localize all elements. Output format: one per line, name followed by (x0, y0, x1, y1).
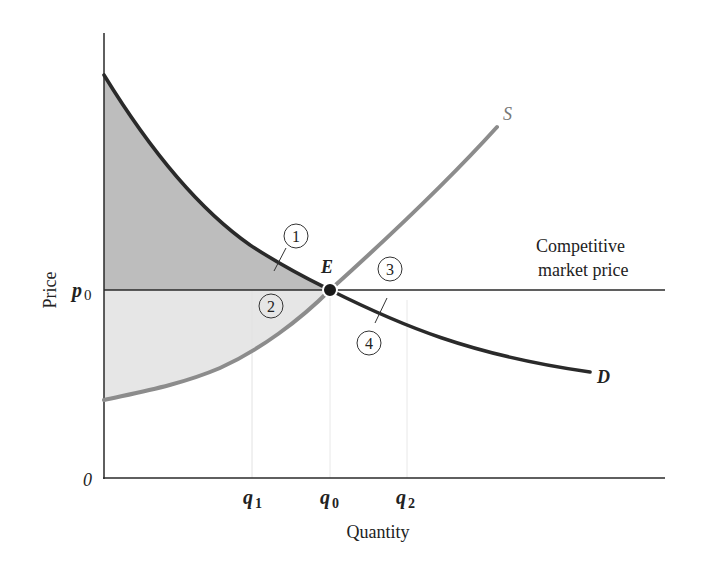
y-axis-title: Price (40, 271, 60, 308)
q2-label: q 2 (396, 486, 415, 511)
competitive-label-line1: Competitive (536, 236, 625, 256)
equilibrium-point (323, 283, 337, 297)
circle-label-2-text: 2 (267, 298, 275, 315)
circle-label-4: 4 (357, 331, 381, 355)
q1-main: q (243, 486, 253, 509)
q1-sub: 1 (255, 496, 262, 511)
consumer-surplus-region (104, 75, 330, 290)
equilibrium-label: E (320, 257, 333, 277)
circle-label-1-text: 1 (292, 228, 300, 245)
p0-label: p 0 (70, 279, 92, 303)
p0-main: p (70, 279, 82, 302)
surplus-diagram: 1 2 3 4 E S D Competitive market price P… (0, 0, 706, 581)
circle-label-3-text: 3 (386, 261, 394, 278)
q0-label: q 0 (320, 486, 339, 511)
circle-label-3: 3 (378, 257, 402, 281)
p0-sub: 0 (84, 287, 92, 303)
producer-surplus-region (104, 290, 330, 400)
origin-label: 0 (83, 470, 92, 490)
demand-label: D (596, 367, 610, 387)
q2-main: q (396, 486, 406, 509)
q1-label: q 1 (243, 486, 262, 511)
competitive-label-line2: market price (538, 260, 628, 280)
x-axis-title: Quantity (347, 522, 410, 542)
q0-sub: 0 (332, 496, 339, 511)
q0-main: q (320, 486, 330, 509)
circle-label-4-text: 4 (365, 335, 373, 352)
circle-label-1: 1 (284, 224, 308, 248)
q2-sub: 2 (408, 496, 415, 511)
supply-label: S (503, 104, 512, 124)
